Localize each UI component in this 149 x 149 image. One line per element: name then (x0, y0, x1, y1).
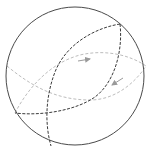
arrow-left-icon (112, 78, 123, 85)
light-arc-upper (15, 53, 146, 113)
dark-arc-left (47, 24, 120, 146)
arrow-right-icon (78, 59, 90, 61)
sphere-diagram (0, 0, 149, 149)
light-arc-lower (7, 66, 146, 100)
sphere-diagram-svg (0, 0, 149, 149)
sphere-outline (6, 7, 144, 145)
dark-arc-right (15, 24, 121, 114)
